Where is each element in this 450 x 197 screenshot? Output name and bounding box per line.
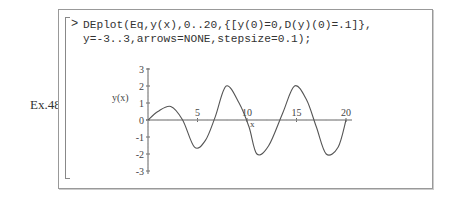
x-tick-label: 5 [195, 107, 200, 118]
x-tick-label: 15 [292, 107, 302, 118]
y-tick-label: -1 [136, 132, 144, 143]
y-tick-label: -2 [136, 149, 144, 160]
x-tick-label: 20 [341, 107, 351, 118]
de-plot: 3210-1-2-3 5101520 y(x) x [0, 0, 450, 197]
x-axis-label: x [250, 119, 255, 129]
y-tick-label: 0 [139, 115, 144, 126]
y-tick-label: 1 [139, 98, 144, 109]
y-axis-label: y(x) [112, 92, 129, 104]
y-tick-label: 3 [139, 64, 144, 75]
y-tick-label: -3 [136, 166, 144, 177]
y-tick-label: 2 [139, 81, 144, 92]
